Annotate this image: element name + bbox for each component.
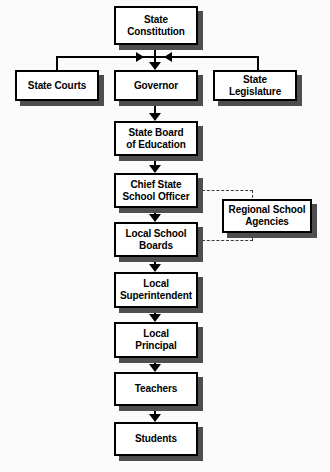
node-label-governor: Governor bbox=[132, 80, 180, 92]
node-state-board-education[interactable]: State Board of Education bbox=[114, 121, 198, 156]
node-regional-school-agencies[interactable]: Regional School Agencies bbox=[222, 199, 312, 233]
node-label-students: Students bbox=[133, 433, 179, 445]
arrowhead-bus-right bbox=[164, 52, 172, 62]
node-label-state-courts: State Courts bbox=[26, 80, 88, 92]
node-label-local-superintendent: Local Superintendent bbox=[118, 278, 194, 302]
arrowhead-state-board bbox=[149, 113, 161, 121]
node-teachers[interactable]: Teachers bbox=[114, 372, 198, 406]
node-label-local-principal: Local Principal bbox=[133, 328, 178, 352]
connector-bus-row1 bbox=[57, 56, 259, 58]
org-chart-canvas: State Constitution State Courts Governor… bbox=[0, 0, 330, 472]
node-state-constitution[interactable]: State Constitution bbox=[114, 6, 198, 45]
node-local-school-boards[interactable]: Local School Boards bbox=[114, 222, 198, 257]
dashed-connector-boards-to-regional bbox=[202, 240, 253, 241]
arrowhead-teachers bbox=[149, 364, 161, 372]
node-state-courts[interactable]: State Courts bbox=[15, 70, 99, 101]
node-local-superintendent[interactable]: Local Superintendent bbox=[114, 272, 198, 308]
node-label-local-school-boards: Local School Boards bbox=[123, 228, 188, 252]
node-label-chief-state-school-officer: Chief State School Officer bbox=[121, 179, 192, 203]
node-label-state-board-education: State Board of Education bbox=[124, 127, 187, 151]
arrowhead-chief-officer bbox=[149, 165, 161, 173]
node-label-state-constitution: State Constitution bbox=[125, 14, 187, 38]
node-local-principal[interactable]: Local Principal bbox=[114, 322, 198, 358]
dashed-connector-chief-to-regional bbox=[202, 190, 253, 191]
arrowhead-bus-left bbox=[136, 52, 144, 62]
arrowhead-local-school-boards bbox=[149, 214, 161, 222]
node-students[interactable]: Students bbox=[114, 422, 198, 456]
node-label-state-legislature: State Legislature bbox=[227, 74, 283, 98]
node-governor[interactable]: Governor bbox=[114, 70, 198, 101]
connector-to-state-legislature bbox=[257, 56, 259, 71]
connector-to-state-courts bbox=[56, 56, 58, 71]
arrowhead-local-principal bbox=[149, 314, 161, 322]
node-state-legislature[interactable]: State Legislature bbox=[213, 70, 297, 101]
node-label-regional-school-agencies: Regional School Agencies bbox=[227, 204, 308, 228]
arrowhead-local-superintendent bbox=[149, 264, 161, 272]
node-label-teachers: Teachers bbox=[133, 383, 179, 395]
node-chief-state-school-officer[interactable]: Chief State School Officer bbox=[114, 173, 198, 208]
arrowhead-students bbox=[149, 414, 161, 422]
arrowhead-governor bbox=[149, 62, 161, 70]
